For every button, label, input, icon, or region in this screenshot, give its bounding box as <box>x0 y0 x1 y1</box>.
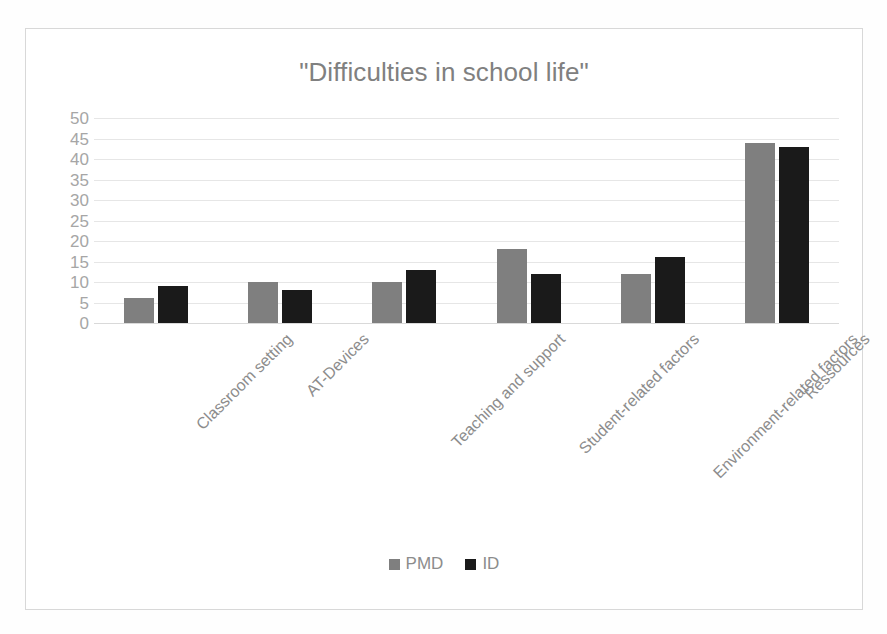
chart-title: "Difficulties in school life" <box>26 57 862 88</box>
bar-id-1 <box>282 290 312 323</box>
bar-pmd-5 <box>745 143 775 323</box>
y-axis-tick-label: 30 <box>70 192 89 209</box>
y-axis-tick-label: 15 <box>70 253 89 270</box>
bar-id-5 <box>779 147 809 323</box>
bar-group <box>467 118 591 323</box>
scanned-page: "Difficulties in school life" 5045403530… <box>0 0 887 634</box>
legend-label: PMD <box>406 554 444 574</box>
chart-frame: "Difficulties in school life" 5045403530… <box>25 28 863 610</box>
y-axis: 50454035302520151050 <box>51 118 89 323</box>
y-axis-tick-label: 50 <box>70 110 89 127</box>
legend-item[interactable]: ID <box>465 554 499 574</box>
bars-layer <box>94 118 839 323</box>
bar-pmd-1 <box>248 282 278 323</box>
y-axis-tick-label: 40 <box>70 151 89 168</box>
x-axis-category-label: Teaching and support <box>449 331 569 451</box>
bar-group <box>591 118 715 323</box>
x-axis-category-label: AT-Devices <box>304 331 372 399</box>
y-axis-tick-label: 25 <box>70 212 89 229</box>
bar-id-0 <box>158 286 188 323</box>
bar-id-2 <box>406 270 436 323</box>
y-axis-tick-label: 0 <box>80 315 89 332</box>
y-axis-tick-label: 5 <box>80 294 89 311</box>
legend-swatch-icon <box>389 559 400 570</box>
bar-group <box>94 118 218 323</box>
x-axis-category-label: Classroom setting <box>194 331 296 433</box>
y-axis-tick-label: 20 <box>70 233 89 250</box>
x-axis: Classroom settingAT-DevicesTeaching and … <box>94 323 839 553</box>
y-axis-tick-label: 45 <box>70 130 89 147</box>
bar-group <box>218 118 342 323</box>
y-axis-tick-label: 10 <box>70 274 89 291</box>
legend-swatch-icon <box>465 559 476 570</box>
bar-id-4 <box>655 257 685 323</box>
legend-label: ID <box>482 554 499 574</box>
bar-pmd-3 <box>497 249 527 323</box>
bar-pmd-4 <box>621 274 651 323</box>
bar-group <box>342 118 466 323</box>
bar-id-3 <box>531 274 561 323</box>
x-axis-category-label: Student-related factors <box>576 331 702 457</box>
bar-group <box>715 118 839 323</box>
legend-item[interactable]: PMD <box>389 554 444 574</box>
y-axis-tick-label: 35 <box>70 171 89 188</box>
bar-pmd-0 <box>124 298 154 323</box>
bar-pmd-2 <box>372 282 402 323</box>
chart-legend: PMDID <box>26 554 862 574</box>
